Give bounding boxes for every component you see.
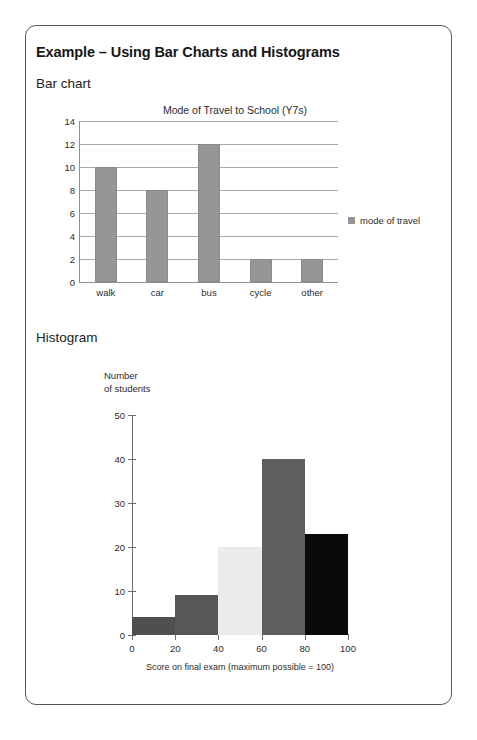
- bar-chart-x-tick-label: other: [301, 287, 323, 298]
- bar-chart-y-tick-label: 14: [64, 116, 75, 127]
- histogram-chart: Number of students 010203040500204060801…: [48, 370, 448, 680]
- bar-chart-plot-area: 02468101214walkcarbuscycleother: [79, 121, 338, 283]
- bar-chart-bar: [250, 259, 272, 282]
- bar-chart-legend: mode of travel: [348, 215, 420, 226]
- histogram-y-tick: [128, 591, 136, 592]
- bar-chart-bar: [198, 144, 220, 282]
- histogram-y-tick: [128, 459, 136, 460]
- histogram-x-tick: [175, 635, 176, 640]
- histogram-plot-area: 01020304050020406080100: [132, 415, 348, 635]
- bar-chart-bar: [301, 259, 323, 282]
- histogram-y-tick: [128, 503, 136, 504]
- bar-chart-gridline: [80, 121, 338, 122]
- histogram-x-tick-label: 0: [129, 643, 134, 654]
- histogram-y-axis: [132, 415, 133, 635]
- histogram-y-tick-label: 50: [114, 410, 125, 421]
- bar-chart: Mode of Travel to School (Y7s) 024681012…: [48, 104, 448, 304]
- bar-chart-y-tick-label: 12: [64, 139, 75, 150]
- page-title: Example – Using Bar Charts and Histogram…: [36, 44, 340, 60]
- bar-chart-x-tick-label: cycle: [250, 287, 272, 298]
- histogram-x-tick-label: 100: [340, 643, 356, 654]
- histogram-y-axis-title: Number of students: [104, 370, 150, 395]
- histogram-x-tick: [305, 635, 306, 640]
- histogram-x-tick-label: 40: [213, 643, 224, 654]
- histogram-bin: [132, 617, 175, 635]
- histogram-bin: [305, 534, 348, 635]
- histogram-x-tick: [218, 635, 219, 640]
- histogram-y-tick-label: 20: [114, 542, 125, 553]
- histogram-x-axis-title: Score on final exam (maximum possible = …: [132, 662, 348, 672]
- bar-chart-x-tick-label: walk: [96, 287, 115, 298]
- histogram-x-tick-label: 20: [170, 643, 181, 654]
- histogram-x-tick: [132, 635, 133, 640]
- bar-chart-x-tick-label: car: [151, 287, 164, 298]
- histogram-x-tick-label: 60: [256, 643, 267, 654]
- histogram-bin: [175, 595, 218, 635]
- histogram-y-axis-title-line2: of students: [104, 383, 150, 396]
- legend-label: mode of travel: [360, 215, 420, 226]
- histogram-bin: [218, 547, 261, 635]
- histogram-y-tick-label: 30: [114, 498, 125, 509]
- bar-chart-bar: [146, 190, 168, 282]
- bar-chart-y-tick-label: 8: [70, 185, 75, 196]
- histogram-y-tick: [128, 547, 136, 548]
- bar-chart-y-tick-label: 0: [70, 277, 75, 288]
- bar-chart-x-tick-label: bus: [201, 287, 216, 298]
- bar-chart-y-tick-label: 6: [70, 208, 75, 219]
- section-heading-histogram: Histogram: [36, 330, 98, 345]
- histogram-y-tick-label: 10: [114, 586, 125, 597]
- bar-chart-y-tick-label: 10: [64, 162, 75, 173]
- bar-chart-y-tick-label: 2: [70, 254, 75, 265]
- histogram-y-tick: [128, 415, 136, 416]
- section-heading-bar-chart: Bar chart: [36, 76, 91, 91]
- histogram-bin: [262, 459, 305, 635]
- histogram-x-tick: [262, 635, 263, 640]
- bar-chart-title: Mode of Travel to School (Y7s): [120, 104, 350, 116]
- bar-chart-bar: [95, 167, 117, 282]
- histogram-x-tick-label: 80: [300, 643, 311, 654]
- histogram-y-tick-label: 0: [120, 630, 125, 641]
- histogram-y-axis-title-line1: Number: [104, 370, 150, 383]
- histogram-x-tick: [348, 635, 349, 640]
- bar-chart-y-tick-label: 4: [70, 231, 75, 242]
- histogram-y-tick-label: 40: [114, 454, 125, 465]
- legend-swatch-icon: [348, 217, 355, 224]
